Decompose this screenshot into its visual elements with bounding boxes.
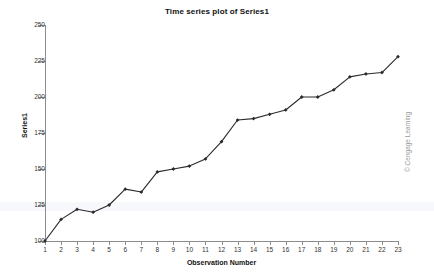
data-point-marker xyxy=(268,112,272,116)
series1-line xyxy=(45,57,398,241)
series1-markers xyxy=(43,55,400,243)
data-point-marker xyxy=(364,72,368,76)
time-series-chart: Time series plot of Series1 Series1 Obse… xyxy=(0,0,434,278)
data-point-marker xyxy=(188,164,192,168)
data-point-marker xyxy=(252,117,256,121)
copyright-credit: © Cengage Learning xyxy=(404,72,411,172)
data-point-marker xyxy=(316,95,320,99)
data-point-marker xyxy=(171,167,175,171)
data-point-marker xyxy=(91,210,95,214)
series1-line-plot xyxy=(0,0,434,278)
